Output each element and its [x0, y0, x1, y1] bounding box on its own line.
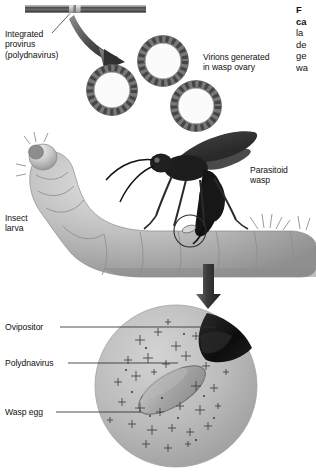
caption-line: F [296, 4, 316, 16]
caption-line: wa [296, 62, 316, 74]
label-virions-generated: Virions generated in wasp ovary [203, 52, 269, 73]
dna-bar [25, 6, 146, 13]
virion-ring [171, 81, 222, 132]
inset-circle [95, 305, 257, 467]
caption-line: ca [296, 16, 316, 28]
label-wasp-egg: Wasp egg [5, 407, 43, 417]
label-parasitoid-wasp: Parasitoid wasp [250, 165, 288, 186]
insect-larva [16, 132, 316, 277]
virion-ring [138, 36, 189, 87]
label-integrated-provirus: Integrated provirus (polydnavirus) [5, 29, 58, 60]
parasitoid-wasp [106, 131, 257, 244]
label-insect-larva: Insect larva [5, 213, 28, 234]
figure-caption: F ca la de ge wa [296, 4, 316, 74]
caption-line: ge [296, 50, 316, 62]
label-ovipositor: Ovipositor [5, 322, 43, 332]
provirus-to-virion-arrow [69, 15, 125, 70]
virion-ring [87, 65, 138, 116]
caption-line: de [296, 39, 316, 51]
label-polydnavirus: Polydnavirus [5, 358, 54, 368]
caption-line: la [296, 27, 316, 39]
integrated-provirus-segment [69, 5, 81, 13]
